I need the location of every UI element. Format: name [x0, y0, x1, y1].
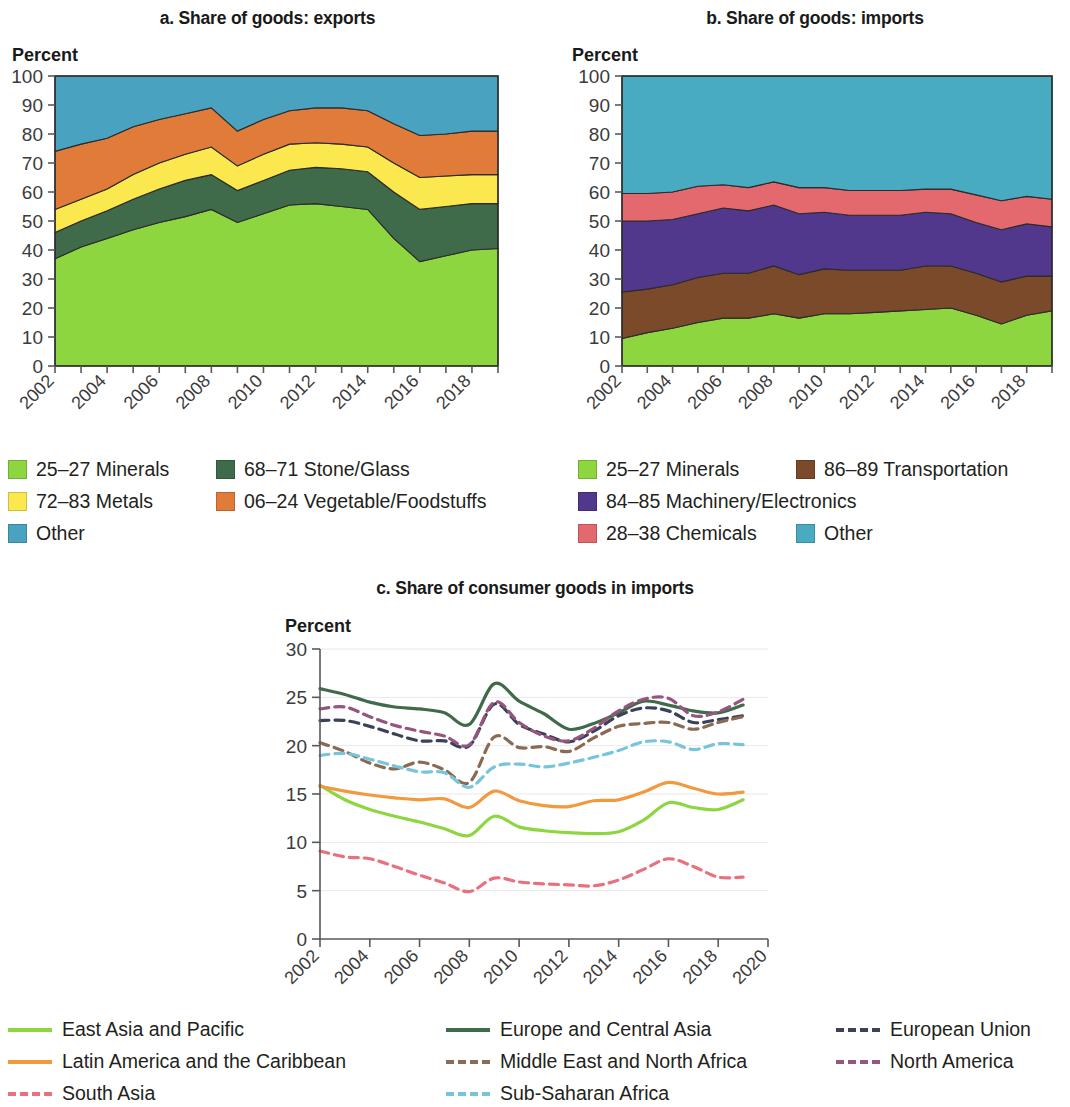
panel-c-unit-label: Percent: [285, 616, 1070, 637]
y-tick-label: 70: [22, 153, 43, 174]
x-tick-label: 2006: [684, 371, 726, 413]
x-tick-label: 2006: [120, 371, 162, 413]
panel-a-svg: 0102030405060708090100200220042006200820…: [0, 70, 520, 405]
legend-row: South Asia Sub-Saharan Africa: [8, 1082, 1070, 1105]
y-tick-label: 40: [22, 240, 43, 261]
legend-line-south-asia-icon: [8, 1092, 52, 1096]
legend-item-europe-central-asia[interactable]: Europe and Central Asia: [446, 1018, 836, 1041]
legend-item-middle-east-north-africa[interactable]: Middle East and North Africa: [446, 1050, 836, 1073]
legend-item-machinery-electronics[interactable]: 84–85 Machinery/Electronics: [578, 490, 856, 513]
y-tick-label: 60: [22, 182, 43, 203]
y-tick-label: 90: [22, 95, 43, 116]
panel-c-svg: 0510152025302002200420062008201020122014…: [258, 641, 798, 1001]
x-tick-label: 2010: [479, 946, 521, 988]
legend-row: 72–83 Metals 06–24 Vegetable/Foodstuffs: [8, 490, 553, 513]
x-tick-label: 2012: [835, 371, 877, 413]
y-tick-label: 70: [589, 153, 610, 174]
legend-line-european-union-icon: [836, 1028, 880, 1032]
x-tick-label: 2012: [276, 371, 318, 413]
y-tick-label: 80: [22, 124, 43, 145]
x-tick-label: 2006: [380, 946, 422, 988]
x-tick-label: 2018: [432, 371, 474, 413]
legend-label: 28–38 Chemicals: [606, 522, 757, 545]
legend-row: 25–27 Minerals 86–89 Transportation: [578, 458, 1070, 481]
legend-item-east-asia-pacific[interactable]: East Asia and Pacific: [8, 1018, 446, 1041]
y-tick-label: 30: [22, 269, 43, 290]
legend-item-stone-glass[interactable]: 68–71 Stone/Glass: [216, 458, 410, 481]
panel-b-title: b. Share of goods: imports: [560, 8, 1070, 29]
legend-swatch-chemicals-icon: [578, 524, 597, 543]
legend-swatch-transportation-icon: [796, 460, 815, 479]
legend-swatch-machinery-electronics-icon: [578, 492, 597, 511]
legend-swatch-metals-icon: [8, 492, 27, 511]
panel-c-title: c. Share of consumer goods in imports: [0, 578, 1070, 599]
panel-a-legend: 25–27 Minerals 68–71 Stone/Glass 72–83 M…: [8, 458, 553, 554]
legend-label: North America: [890, 1050, 1014, 1073]
legend-line-east-asia-pacific-icon: [8, 1028, 52, 1032]
x-tick-label: 2016: [936, 371, 978, 413]
legend-label: Sub-Saharan Africa: [500, 1082, 669, 1105]
legend-item-south-asia[interactable]: South Asia: [8, 1082, 446, 1105]
panel-b-plot: 0102030405060708090100200220042006200820…: [560, 70, 1070, 405]
panel-a-title: a. Share of goods: exports: [0, 8, 535, 29]
panel-c-plot: 0510152025302002200420062008201020122014…: [258, 641, 1070, 1001]
legend-label: Other: [824, 522, 873, 545]
x-tick-label: 2018: [679, 946, 721, 988]
legend-line-middle-east-north-africa-icon: [446, 1060, 490, 1064]
x-tick-label: 2012: [529, 946, 571, 988]
x-tick-label: 2010: [785, 371, 827, 413]
y-tick-label: 15: [286, 784, 307, 805]
legend-row: East Asia and Pacific Europe and Central…: [8, 1018, 1070, 1041]
legend-label: Other: [36, 522, 85, 545]
legend-line-sub-saharan-africa-icon: [446, 1092, 490, 1096]
legend-swatch-minerals-icon: [8, 460, 27, 479]
x-tick-label: 2020: [728, 946, 770, 988]
legend-label: 25–27 Minerals: [606, 458, 739, 481]
line-series: [320, 717, 743, 784]
legend-label: 68–71 Stone/Glass: [244, 458, 410, 481]
y-tick-label: 50: [22, 211, 43, 232]
panel-c-consumer-goods: c. Share of consumer goods in imports Pe…: [0, 578, 1070, 1001]
panel-a-unit-label: Percent: [12, 45, 535, 66]
y-tick-label: 40: [589, 240, 610, 261]
legend-swatch-vegetable-foodstuffs-icon: [216, 492, 235, 511]
legend-row: Latin America and the Caribbean Middle E…: [8, 1050, 1070, 1073]
y-tick-label: 10: [286, 832, 307, 853]
legend-row: 28–38 Chemicals Other: [578, 522, 1070, 545]
legend-item-transportation[interactable]: 86–89 Transportation: [796, 458, 1008, 481]
x-tick-label: 2002: [15, 371, 57, 413]
legend-swatch-stone-glass-icon: [216, 460, 235, 479]
y-tick-label: 100: [11, 66, 43, 87]
panel-b-unit-label: Percent: [572, 45, 1070, 66]
legend-item-other-a[interactable]: Other: [8, 522, 216, 545]
panel-c-legend: East Asia and Pacific Europe and Central…: [8, 1018, 1070, 1107]
y-tick-label: 30: [589, 269, 610, 290]
legend-item-metals[interactable]: 72–83 Metals: [8, 490, 216, 513]
legend-item-sub-saharan-africa[interactable]: Sub-Saharan Africa: [446, 1082, 836, 1105]
y-tick-label: 100: [578, 66, 610, 87]
y-tick-label: 5: [296, 881, 307, 902]
legend-item-north-america[interactable]: North America: [836, 1050, 1014, 1073]
x-tick-label: 2002: [280, 946, 322, 988]
legend-item-vegetable-foodstuffs[interactable]: 06–24 Vegetable/Foodstuffs: [216, 490, 487, 513]
legend-item-chemicals[interactable]: 28–38 Chemicals: [578, 522, 796, 545]
legend-label: 25–27 Minerals: [36, 458, 169, 481]
panel-a-exports: a. Share of goods: exports Percent 01020…: [0, 8, 535, 405]
legend-item-other-b[interactable]: Other: [796, 522, 873, 545]
legend-label: 86–89 Transportation: [824, 458, 1008, 481]
panel-b-imports: b. Share of goods: imports Percent 01020…: [560, 8, 1070, 405]
x-tick-label: 2014: [886, 371, 928, 413]
legend-label: South Asia: [62, 1082, 155, 1105]
legend-item-latin-america-caribbean[interactable]: Latin America and the Caribbean: [8, 1050, 446, 1073]
y-tick-label: 20: [286, 736, 307, 757]
legend-label: European Union: [890, 1018, 1031, 1041]
legend-item-european-union[interactable]: European Union: [836, 1018, 1031, 1041]
panel-a-plot: 0102030405060708090100200220042006200820…: [0, 70, 535, 405]
x-tick-label: 2018: [987, 371, 1029, 413]
legend-item-minerals-b[interactable]: 25–27 Minerals: [578, 458, 796, 481]
legend-item-minerals[interactable]: 25–27 Minerals: [8, 458, 216, 481]
x-tick-label: 2014: [579, 946, 621, 988]
x-tick-label: 2008: [430, 946, 472, 988]
legend-label: Middle East and North Africa: [500, 1050, 747, 1073]
legend-label: 06–24 Vegetable/Foodstuffs: [244, 490, 487, 513]
